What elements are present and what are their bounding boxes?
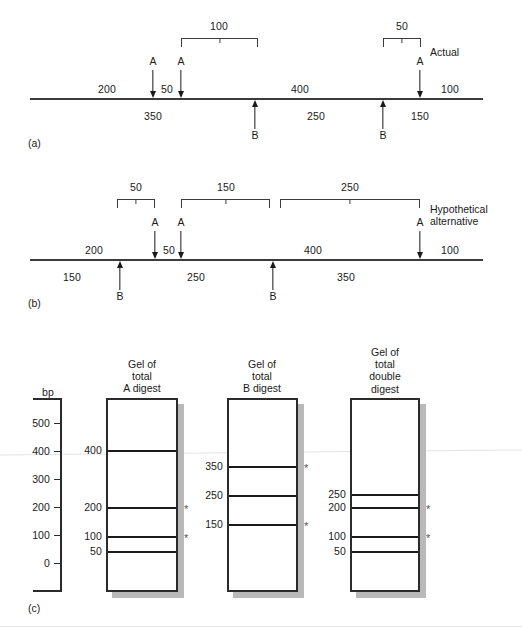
gel-band-a-100: [108, 536, 176, 538]
fragment-below-b-1: 150: [63, 271, 81, 283]
bracket-a-100: [181, 38, 258, 47]
gel-band-star-a-200: *: [184, 506, 188, 512]
gel-band-double-250: [352, 494, 418, 496]
gel-band-star-b-150: *: [304, 523, 308, 529]
fragment-below-a-3: 150: [411, 110, 429, 122]
fragment-above-a-4: 100: [441, 83, 459, 95]
bp-tick-label-0: 0: [44, 557, 50, 569]
gel-box-a-digest[interactable]: [106, 398, 178, 592]
fragment-above-a-3: 400: [291, 83, 309, 95]
fragment-above-b-1: 200: [85, 244, 103, 256]
gel-band-label-double-250: 250: [328, 488, 346, 500]
bp-tick-label-400: 400: [32, 445, 50, 457]
bp-tick-200: [54, 507, 61, 508]
gel-band-label-double-50: 50: [334, 545, 346, 557]
gel-band-b-250: [229, 495, 296, 497]
b-panel-b-site-label-1: B: [116, 290, 123, 302]
fragment-below-b-3: 350: [337, 271, 355, 283]
fragment-above-a-1: 200: [98, 83, 116, 95]
b-panel-a-site-label-3: A: [416, 216, 423, 228]
gel-band-label-a-50: 50: [90, 545, 102, 557]
fragment-above-a-2: 50: [161, 83, 173, 95]
bp-tick-label-300: 300: [32, 473, 50, 485]
gel-band-label-double-100: 100: [328, 530, 346, 542]
panel-c-letter: (c): [28, 602, 40, 614]
fragment-below-b-2: 250: [187, 271, 205, 283]
a-site-label-1: A: [149, 55, 156, 67]
b-panel-a-site-label-2: A: [177, 216, 184, 228]
bp-axis-top-cap: [33, 398, 61, 400]
gel-band-b-150: [229, 524, 296, 526]
gel-band-star-double-200: *: [426, 506, 430, 512]
gel-band-label-a-100: 100: [84, 530, 102, 542]
panel-b-side-title: Hypothetical alternative: [430, 203, 488, 227]
bracket-b-50: [117, 199, 155, 208]
bp-tick-300: [54, 479, 61, 480]
b-panel-b-site-label-2: B: [269, 290, 276, 302]
b-panel-a-site-label-1: A: [151, 216, 158, 228]
bracket-tick-icon: [401, 38, 402, 43]
panel-a-side-title: Actual: [430, 46, 459, 58]
bracket-tick-icon: [219, 38, 220, 43]
restriction-map-figure: 100 50 Actual A A A: [0, 0, 522, 629]
bp-tick-label-500: 500: [32, 417, 50, 429]
gel-band-star-a-100: *: [184, 535, 188, 541]
bracket-a-100-label: 100: [210, 20, 228, 32]
gel-band-double-200: [352, 507, 418, 509]
bp-tick-500: [54, 423, 61, 424]
a-site-label-3: A: [416, 55, 423, 67]
fragment-below-a-2: 250: [307, 110, 325, 122]
bracket-b-50-label: 50: [130, 181, 142, 193]
dna-line-b: [30, 259, 483, 261]
bp-axis-bottom-cap: [33, 590, 61, 592]
bracket-a-50: [383, 38, 421, 47]
gel-band-double-50: [352, 551, 418, 553]
b-site-label-2: B: [379, 129, 386, 141]
b-site-label-1: B: [251, 129, 258, 141]
panel-b-letter: (b): [28, 297, 41, 309]
gel-band-label-a-400: 400: [84, 444, 102, 456]
gel-title-double-digest: Gel of total double digest: [369, 346, 401, 395]
gel-band-label-b-150: 150: [205, 518, 223, 530]
bp-tick-400: [54, 451, 61, 452]
gel-band-label-a-200: 200: [84, 501, 102, 513]
fragment-above-b-2: 50: [163, 244, 175, 256]
panel-a-letter: (a): [28, 137, 41, 149]
bracket-a-50-label: 50: [396, 20, 408, 32]
bracket-tick-icon: [225, 199, 226, 204]
bracket-b-250-label: 250: [341, 181, 359, 193]
bracket-b-250: [280, 199, 420, 208]
fragment-below-a-1: 350: [144, 110, 162, 122]
bp-tick-0: [54, 563, 61, 564]
gel-band-label-b-250: 250: [205, 489, 223, 501]
gel-band-a-400: [108, 450, 176, 452]
bp-tick-label-200: 200: [32, 501, 50, 513]
a-site-label-2: A: [177, 55, 184, 67]
bracket-b-150-label: 150: [217, 181, 235, 193]
fragment-above-b-3: 400: [304, 244, 322, 256]
gel-band-double-100: [352, 536, 418, 538]
bracket-tick-icon: [349, 199, 350, 204]
gel-band-star-b-350: *: [304, 465, 308, 471]
gel-band-label-double-200: 200: [328, 501, 346, 513]
bp-tick-label-100: 100: [32, 529, 50, 541]
gel-band-label-b-350: 350: [205, 460, 223, 472]
gel-title-a-digest: Gel of total A digest: [123, 358, 160, 395]
gel-title-b-digest: Gel of total B digest: [243, 358, 281, 395]
gel-band-a-200: [108, 507, 176, 509]
bp-axis-label: bp: [42, 386, 54, 398]
gel-band-star-double-100: *: [426, 535, 430, 541]
bracket-b-150: [181, 199, 270, 208]
bp-tick-100: [54, 535, 61, 536]
page-edge-artifact: [0, 626, 522, 627]
bracket-tick-icon: [135, 199, 136, 204]
gel-band-b-350: [229, 466, 296, 468]
fragment-above-b-4: 100: [441, 244, 459, 256]
gel-band-a-50: [108, 551, 176, 553]
